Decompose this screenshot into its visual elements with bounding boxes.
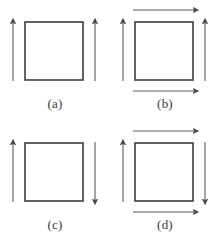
- square-outline: [135, 22, 193, 80]
- square-outline: [135, 143, 193, 201]
- panel-b-label: (b): [110, 97, 220, 110]
- panel-a-label: (a): [0, 97, 110, 110]
- panel-a: (a): [0, 0, 110, 121]
- panel-d-label: (d): [110, 218, 220, 231]
- panel-b: (b): [110, 0, 220, 121]
- figure-container: (a) (b): [0, 0, 221, 242]
- panel-c: (c): [0, 121, 110, 242]
- panel-c-label: (c): [0, 218, 110, 231]
- square-outline: [25, 22, 83, 80]
- panel-d: (d): [110, 121, 220, 242]
- square-outline: [25, 143, 83, 201]
